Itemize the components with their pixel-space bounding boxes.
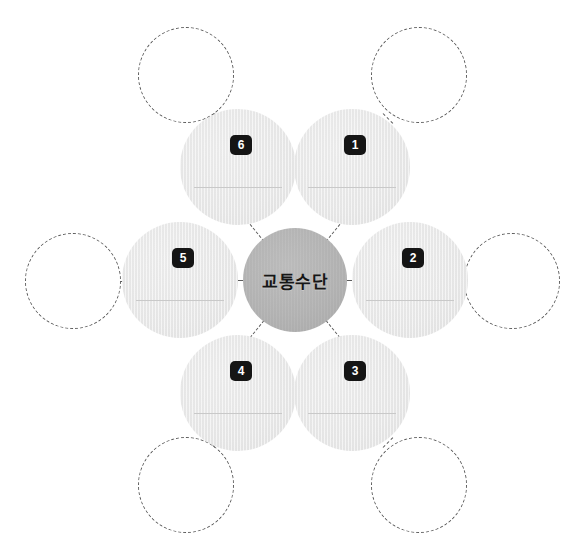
answer-writeline-1[interactable] [308, 187, 396, 188]
diagram-canvas: 123456교통수단 [0, 0, 566, 555]
center-hub: 교통수단 [243, 228, 347, 332]
answer-writeline-4[interactable] [194, 413, 282, 414]
number-badge-5: 5 [172, 248, 194, 268]
blank-answer-circle-bottom-right-blank[interactable] [371, 437, 467, 533]
blank-answer-circle-right-blank[interactable] [464, 233, 560, 329]
petal-circle-6[interactable]: 6 [180, 109, 296, 225]
answer-writeline-2[interactable] [366, 300, 454, 301]
center-hub-label: 교통수단 [262, 268, 328, 293]
petal-circle-5[interactable]: 5 [122, 222, 238, 338]
answer-writeline-6[interactable] [194, 187, 282, 188]
blank-answer-circle-top-right-blank[interactable] [371, 27, 467, 123]
number-badge-1: 1 [344, 135, 366, 155]
petal-circle-1[interactable]: 1 [294, 109, 410, 225]
answer-writeline-5[interactable] [136, 300, 224, 301]
petal-circle-4[interactable]: 4 [180, 335, 296, 451]
blank-answer-circle-left-blank[interactable] [25, 233, 121, 329]
number-badge-4: 4 [230, 361, 252, 381]
number-badge-6: 6 [230, 135, 252, 155]
blank-answer-circle-top-left-blank[interactable] [138, 27, 234, 123]
number-badge-2: 2 [402, 248, 424, 268]
petal-circle-2[interactable]: 2 [352, 222, 468, 338]
blank-answer-circle-bottom-left-blank[interactable] [138, 437, 234, 533]
petal-circle-3[interactable]: 3 [294, 335, 410, 451]
answer-writeline-3[interactable] [308, 413, 396, 414]
number-badge-3: 3 [344, 361, 366, 381]
